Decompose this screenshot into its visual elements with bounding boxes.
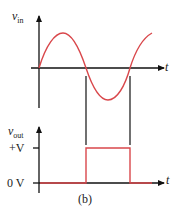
vout-pulse: [40, 148, 152, 183]
vin-t-label: t: [165, 60, 168, 75]
vin-label: vin: [12, 9, 24, 25]
vout-t-label: t: [166, 173, 169, 188]
figure-caption: (b): [78, 192, 92, 207]
diagram-canvas: [0, 0, 179, 217]
zero-v-label: 0 V: [7, 176, 24, 191]
vin-sine-wave: [39, 33, 152, 100]
plus-v-label: +V: [9, 141, 24, 156]
vout-label: vout: [8, 124, 24, 140]
